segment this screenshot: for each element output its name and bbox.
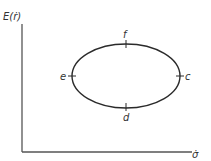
point-label-c: c <box>185 71 191 82</box>
x-axis-label: σ̇ <box>192 149 199 160</box>
closed-curve <box>72 44 180 108</box>
y-axis-label: E(ṙ) <box>3 11 21 22</box>
diagram-canvas: E(ṙ) σ̇ c d e f <box>0 0 211 161</box>
point-label-e: e <box>60 71 66 82</box>
point-label-f: f <box>123 29 128 40</box>
point-label-d: d <box>123 112 130 123</box>
